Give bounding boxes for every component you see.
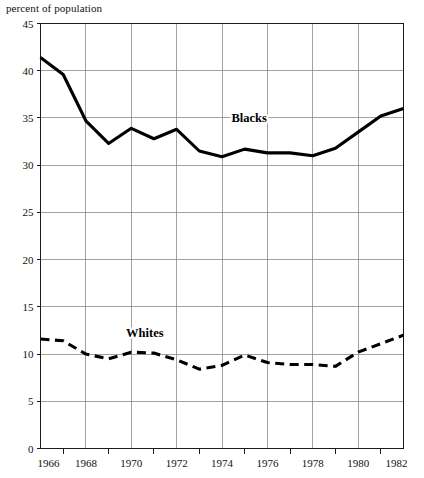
y-tick-label: 45 bbox=[23, 18, 35, 30]
x-tick-label: 1980 bbox=[347, 457, 370, 469]
x-tick-label: 1978 bbox=[302, 457, 325, 469]
y-tick-label: 35 bbox=[23, 112, 35, 124]
series-inline-labels: BlacksBlacksWhitesWhites bbox=[126, 111, 267, 340]
x-tick-label: 1974 bbox=[211, 457, 234, 469]
series-label-whites: Whites bbox=[126, 326, 164, 340]
y-tick-label: 30 bbox=[23, 159, 35, 171]
y-tick-label: 5 bbox=[28, 395, 34, 407]
y-tick-label: 40 bbox=[23, 65, 35, 77]
x-axis-tick-labels: 196619681970197219741976197819801982 bbox=[38, 457, 408, 469]
x-tick-label: 1976 bbox=[256, 457, 279, 469]
y-tick-label: 15 bbox=[23, 301, 35, 313]
vertical-gridlines bbox=[86, 24, 358, 449]
x-tick-label: 1982 bbox=[386, 457, 408, 469]
chart-plot-svg: 051015202530354045 196619681970197219741… bbox=[0, 0, 424, 478]
y-axis-tick-labels: 051015202530354045 bbox=[23, 18, 35, 455]
x-tick-label: 1970 bbox=[120, 457, 143, 469]
series-label-blacks: Blacks bbox=[232, 111, 268, 125]
x-tick-label: 1966 bbox=[38, 457, 61, 469]
chart-container: percent of population 051015202530354045… bbox=[0, 0, 424, 478]
y-tick-label: 0 bbox=[28, 443, 34, 455]
y-tick-label: 25 bbox=[23, 206, 35, 218]
y-tick-label: 20 bbox=[23, 254, 35, 266]
axis-tickmarks bbox=[37, 24, 381, 454]
x-tick-label: 1972 bbox=[166, 457, 188, 469]
x-tick-label: 1968 bbox=[75, 457, 98, 469]
y-tick-label: 10 bbox=[23, 348, 35, 360]
